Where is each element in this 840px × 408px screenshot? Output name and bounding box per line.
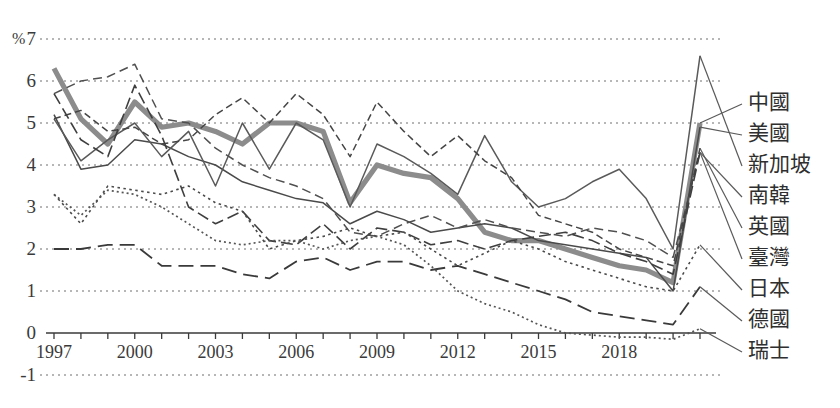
legend-leader-2 [700, 56, 742, 166]
series-line-8 [54, 190, 700, 339]
x-tick-label: 2000 [105, 343, 165, 361]
y-tick-label: -1 [0, 365, 36, 384]
x-tick-label: 2009 [347, 343, 407, 361]
y-tick-label: 0 [0, 323, 36, 342]
legend-item-1[interactable]: 美國 [748, 123, 790, 144]
x-tick-label: 2018 [589, 343, 649, 361]
x-axis [46, 333, 716, 339]
gridlines [40, 39, 724, 375]
legend-item-6[interactable]: 日本 [748, 278, 790, 299]
legend-leader-0 [700, 104, 742, 123]
legend-item-2[interactable]: 新加坡 [748, 154, 811, 175]
legend-item-7[interactable]: 德國 [748, 309, 790, 330]
legend-leader-5 [700, 152, 742, 259]
x-tick-label: 2015 [509, 343, 569, 361]
legend-leader-lines [700, 56, 742, 352]
y-tick-label: 5 [0, 113, 36, 132]
legend-item-0[interactable]: 中國 [748, 92, 790, 113]
series-line-7 [54, 245, 700, 325]
legend-leader-8 [700, 329, 742, 352]
legend-leader-4 [700, 148, 742, 228]
series-line-5 [54, 85, 700, 274]
y-axis-unit-label: % [12, 31, 25, 47]
legend-item-3[interactable]: 南韓 [748, 185, 790, 206]
y-tick-label: 3 [0, 197, 36, 216]
series-group [54, 56, 700, 340]
legend-item-8[interactable]: 瑞士 [748, 340, 790, 361]
legend-leader-1 [700, 127, 742, 135]
x-tick-label: 2003 [186, 343, 246, 361]
x-tick-label: 1997 [24, 343, 84, 361]
legend-leader-7 [700, 287, 742, 321]
y-tick-label: 1 [0, 281, 36, 300]
legend-item-5[interactable]: 臺灣 [748, 247, 790, 268]
chart-root: 76543210-1 19972000200320062009201220152… [0, 0, 840, 408]
y-tick-label: 4 [0, 155, 36, 174]
x-tick-label: 2012 [428, 343, 488, 361]
x-tick-label: 2006 [266, 343, 326, 361]
y-tick-label: 6 [0, 71, 36, 90]
y-tick-label: 2 [0, 239, 36, 258]
legend-leader-6 [700, 245, 742, 290]
series-line-2 [54, 56, 700, 249]
legend-item-4[interactable]: 英國 [748, 216, 790, 237]
